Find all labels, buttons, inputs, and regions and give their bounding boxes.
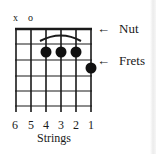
finger-dot-string-4	[41, 47, 52, 58]
finger-dot-string-2	[71, 47, 82, 58]
string-number-1: 1	[86, 119, 96, 131]
nut-arrow-icon: ←	[97, 22, 110, 35]
string-number-2: 2	[71, 119, 81, 131]
muted-string-marker: x	[13, 13, 18, 23]
finger-dot-string-3	[56, 47, 67, 58]
string-number-3: 3	[56, 119, 66, 131]
nut-label: Nut	[119, 22, 139, 35]
open-string-marker: o	[28, 13, 33, 23]
string-number-4: 4	[41, 119, 51, 131]
frets-arrow-icon: ←	[97, 54, 110, 67]
string-number-6: 6	[10, 119, 20, 131]
frets-label: Frets	[119, 54, 145, 67]
finger-dot-string-1	[86, 63, 97, 74]
strings-caption: Strings	[31, 132, 77, 145]
string-number-5: 5	[26, 119, 36, 131]
